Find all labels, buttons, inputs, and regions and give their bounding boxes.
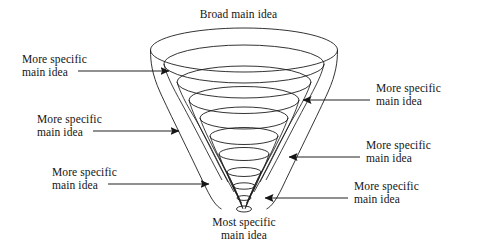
funnel-ring-5 bbox=[200, 107, 288, 129]
callout-left-3: More specific main idea bbox=[52, 166, 117, 192]
label-broad-main-idea: Broad main idea bbox=[0, 8, 477, 21]
callout-right-3: More specific main idea bbox=[354, 180, 419, 206]
callout-left-2-line1: More specific bbox=[37, 113, 102, 125]
callout-right-2-line2: main idea bbox=[366, 152, 431, 165]
callout-left-2-line2: main idea bbox=[37, 126, 102, 139]
funnel-ring-9 bbox=[233, 183, 255, 189]
callout-left-3-line2: main idea bbox=[52, 179, 117, 192]
callout-left-1: More specific main idea bbox=[22, 53, 87, 79]
funnel-ring-6 bbox=[210, 128, 278, 145]
funnel-ring-7 bbox=[219, 148, 269, 161]
callout-left-1-line1: More specific bbox=[22, 53, 87, 65]
callout-right-3-line1: More specific bbox=[354, 180, 419, 192]
callout-right-3-line2: main idea bbox=[354, 193, 419, 206]
callout-right-1-line1: More specific bbox=[376, 82, 441, 94]
callout-right-2: More specific main idea bbox=[366, 139, 431, 165]
label-most-specific-line2: main idea bbox=[174, 229, 314, 242]
funnel-ring-1 bbox=[151, 28, 338, 72]
callout-arrows bbox=[78, 71, 370, 198]
callout-left-1-line2: main idea bbox=[22, 66, 87, 79]
funnel-ring-2 bbox=[164, 45, 324, 83]
callout-left-3-line1: More specific bbox=[52, 166, 117, 178]
label-most-specific-line1: Most specific bbox=[212, 216, 276, 228]
callout-right-2-line1: More specific bbox=[366, 139, 431, 151]
callout-right-1-line2: main idea bbox=[376, 95, 441, 108]
funnel-ring-8 bbox=[227, 168, 261, 177]
label-most-specific-main-idea: Most specific main idea bbox=[174, 216, 314, 242]
callout-right-1: More specific main idea bbox=[376, 82, 441, 108]
label-broad-main-idea-text: Broad main idea bbox=[200, 8, 278, 20]
callout-left-2: More specific main idea bbox=[37, 113, 102, 139]
funnel-ring-4 bbox=[189, 87, 299, 114]
funnel-diagram: Broad main idea More specific main idea … bbox=[0, 0, 477, 252]
funnel-cone-walls bbox=[151, 50, 338, 209]
funnel-ring-11 bbox=[237, 206, 252, 212]
funnel-inner-walls bbox=[164, 64, 324, 209]
